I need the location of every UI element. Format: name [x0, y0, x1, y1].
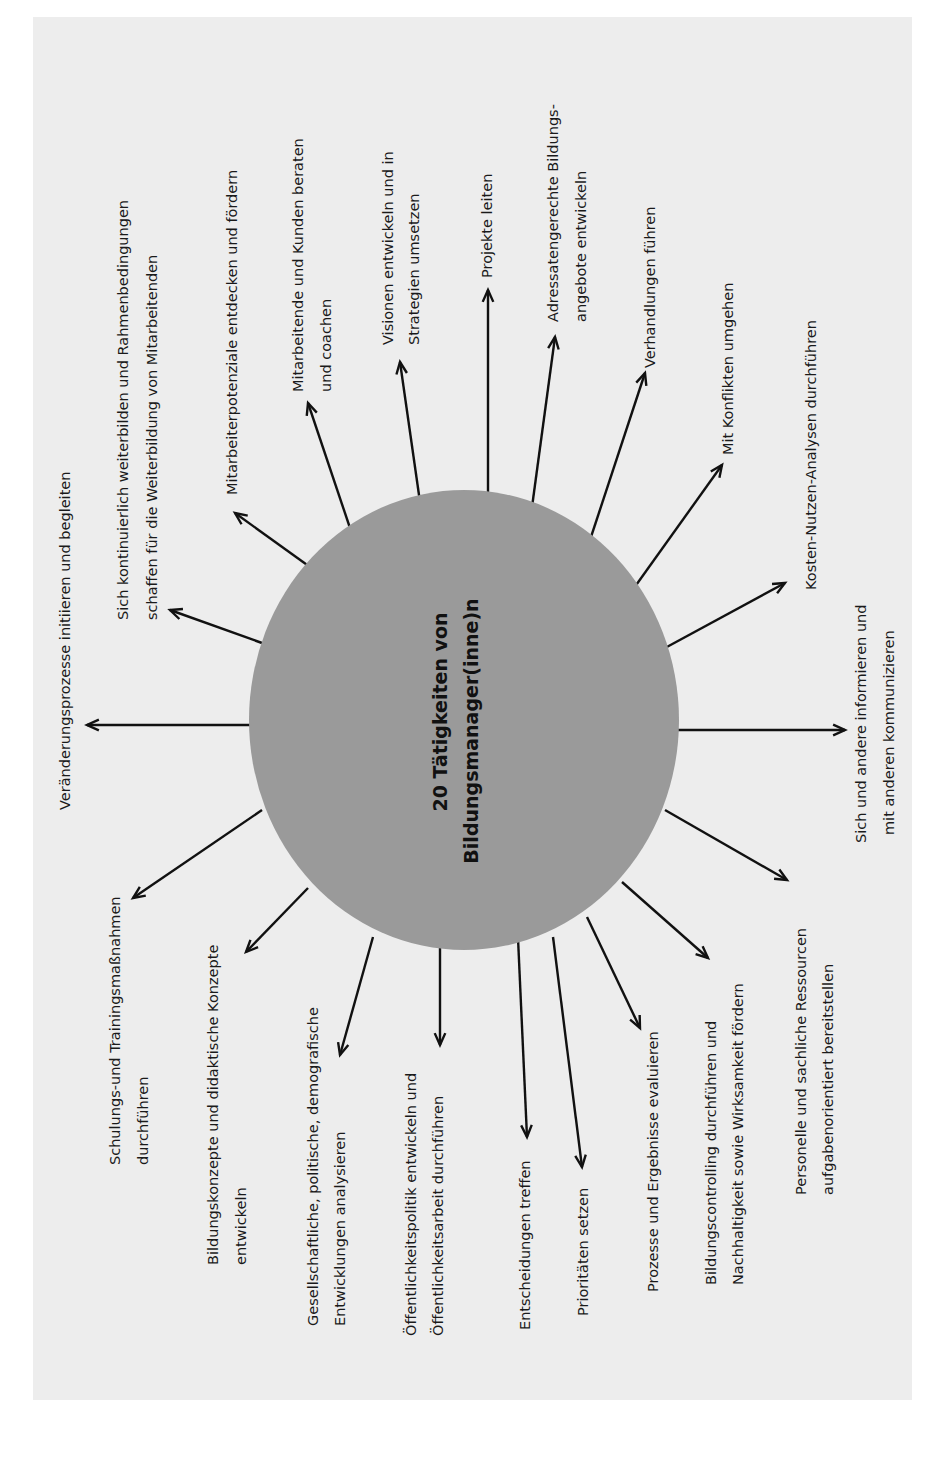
activity-label-10: Kosten-Nutzen-Analysen durchführen	[803, 320, 819, 590]
activity-label-15: Prioritäten setzen	[575, 1188, 591, 1316]
label-line: angebote entwickeln	[573, 171, 589, 322]
label-line: Kosten-Nutzen-Analysen durchführen	[803, 320, 819, 590]
label-line: Mitarbeiterpotenziale entdecken und förd…	[224, 170, 240, 495]
activity-label-6: Projekte leiten	[479, 174, 495, 278]
label-line: Strategien umsetzen	[406, 194, 422, 346]
label-line: Öffentlichkeitsarbeit durchführen	[429, 1096, 446, 1336]
label-line: Personelle und sachliche Ressourcen	[793, 928, 809, 1195]
label-line: Sich und andere informieren und	[853, 605, 869, 844]
label-line: Mitarbeitende und Kunden beraten	[290, 138, 306, 392]
label-line: schaffen für die Weiterbildung von Mitar…	[144, 255, 160, 620]
label-line: und coachen	[318, 299, 334, 392]
label-line: aufgabenorientiert bereitstellen	[820, 964, 836, 1195]
activities-diagram: 20 Tätigkeiten von Bildungsmanager(inne)…	[0, 0, 945, 1470]
label-line: Gesellschaftliche, politische, demografi…	[305, 1007, 321, 1326]
label-line: Veränderungsprozesse initiieren und begl…	[57, 472, 73, 810]
label-line: Entwicklungen analysieren	[332, 1132, 348, 1326]
label-line: Verhandlungen führen	[642, 207, 658, 368]
label-line: Bildungskonzepte und didaktische Konzept…	[205, 945, 221, 1265]
activity-label-14: Prozesse und Ergebnisse evaluieren	[645, 1031, 661, 1292]
activity-label-16: Entscheidungen treffen	[517, 1160, 533, 1330]
label-line: Projekte leiten	[479, 174, 495, 278]
hub-title-line-1: 20 Tätigkeiten von	[429, 612, 451, 811]
label-line: Schulungs-und Trainingsmaßnahmen	[107, 896, 123, 1165]
activity-label-8: Verhandlungen führen	[642, 207, 658, 368]
label-line: Prozesse und Ergebnisse evaluieren	[645, 1031, 661, 1292]
label-line: Adressatengerechte Bildungs-	[545, 104, 561, 322]
label-line: Sich kontinuierlich weiterbilden und Rah…	[115, 200, 131, 620]
activity-label-3: Mitarbeiterpotenziale entdecken und förd…	[224, 170, 240, 495]
label-line: Visionen entwickeln und in	[380, 151, 396, 345]
label-line: Prioritäten setzen	[575, 1188, 591, 1316]
label-line: Öffentlichkeitspolitik entwickeln und	[402, 1073, 419, 1336]
label-line: entwickeln	[233, 1187, 249, 1265]
hub-title-line-2: Bildungsmanager(inne)n	[460, 598, 482, 863]
activity-label-9: Mit Konflikten umgehen	[720, 283, 736, 455]
label-line: Nachhaltigkeit sowie Wirksamkeit fördern	[730, 983, 746, 1285]
activity-label-1: Veränderungsprozesse initiieren und begl…	[57, 472, 73, 810]
label-line: Mit Konflikten umgehen	[720, 283, 736, 455]
label-line: Bildungscontrolling durchführen und	[703, 1021, 719, 1285]
label-line: durchführen	[135, 1077, 151, 1165]
label-line: Entscheidungen treffen	[517, 1160, 533, 1330]
label-line: mit anderen kommunizieren	[881, 630, 897, 835]
